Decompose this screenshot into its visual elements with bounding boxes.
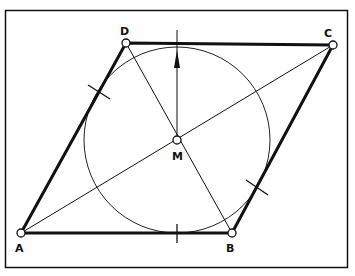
- vertex-c: [329, 41, 337, 49]
- tick-mark-ad: [88, 85, 110, 99]
- center-m: [173, 136, 181, 144]
- label-c: C: [324, 27, 332, 40]
- label-m: M: [172, 150, 183, 163]
- vertex-b: [228, 229, 236, 237]
- arrow-head-icon: [174, 50, 180, 68]
- vertex-d: [122, 39, 130, 47]
- tick-mark-bc: [246, 180, 268, 195]
- label-b: B: [226, 242, 234, 255]
- label-d: D: [120, 25, 129, 38]
- rhombus-diagram: A B C D M: [0, 0, 355, 276]
- label-a: A: [15, 242, 24, 255]
- vertex-a: [17, 229, 25, 237]
